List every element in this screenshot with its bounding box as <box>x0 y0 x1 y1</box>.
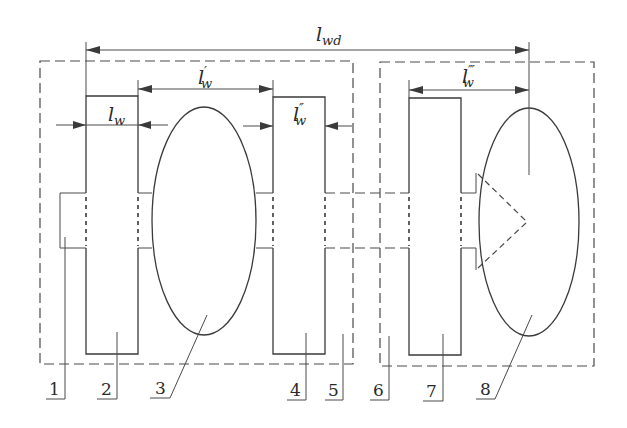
svg-text:2: 2 <box>101 379 112 399</box>
svg-text:3: 3 <box>155 378 166 398</box>
part-4-block <box>273 97 325 354</box>
svg-text:8: 8 <box>480 379 491 399</box>
svg-text:lwd: lwd <box>316 23 342 48</box>
svg-text:5: 5 <box>328 380 339 400</box>
svg-text:4: 4 <box>290 380 301 400</box>
callout-3: 3 <box>150 315 207 398</box>
right-dashed-boundary <box>380 62 594 366</box>
dimension-lw: lw <box>56 103 168 129</box>
dimension-lw-prime: l′w <box>138 64 273 97</box>
schematic-svg: lwd lw l′w l″w l‴w 1 <box>0 0 627 428</box>
dimension-lw-triple-prime: l‴w <box>409 63 529 98</box>
svg-text:6: 6 <box>373 380 384 400</box>
svg-text:l′w: l′w <box>198 64 212 91</box>
svg-text:l‴w: l‴w <box>462 63 475 90</box>
part-3-ellipse <box>152 107 256 335</box>
callout-5: 5 <box>325 334 343 400</box>
left-dashed-boundary <box>40 61 353 364</box>
part-2-block <box>86 96 138 354</box>
cone-dashed <box>478 174 527 268</box>
svg-text:lw: lw <box>108 103 125 128</box>
shaft <box>60 173 476 270</box>
dimension-lwd: lwd <box>86 23 529 175</box>
svg-text:l″w: l″w <box>293 101 306 128</box>
callout-7: 7 <box>423 334 443 401</box>
callout-2: 2 <box>97 332 117 399</box>
svg-text:7: 7 <box>426 381 437 401</box>
callout-1: 1 <box>46 237 65 399</box>
diagram-canvas: lwd lw l′w l″w l‴w 1 <box>0 0 627 428</box>
dimension-lw-double-prime: l″w <box>243 101 352 130</box>
callout-8: 8 <box>476 315 532 399</box>
callout-4: 4 <box>287 333 306 400</box>
svg-text:1: 1 <box>49 379 60 399</box>
part-7-block <box>409 98 461 355</box>
